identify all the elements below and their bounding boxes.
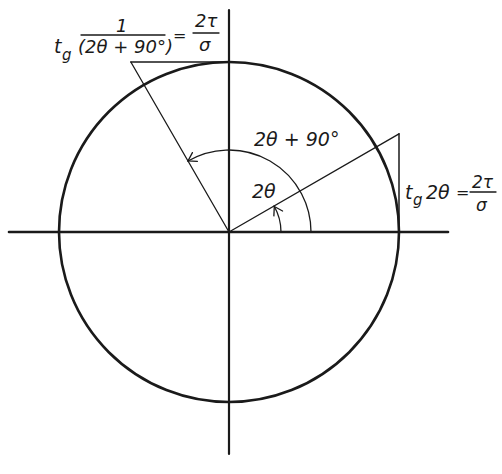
eq-right-denominator: σ xyxy=(476,195,488,215)
eq-left-numerator: 1 xyxy=(116,15,127,36)
eq-left-equals: = xyxy=(173,26,186,45)
ray-two-theta-plus-90 xyxy=(131,62,229,232)
eq-right-tg-sub: g xyxy=(413,191,423,209)
eq-left-rhs-denominator: σ xyxy=(199,34,211,55)
eq-left-argument: (2θ + 90°) xyxy=(78,36,173,57)
label-two-theta-plus-90: 2θ + 90° xyxy=(254,128,339,150)
equation-inverse-tan: 1 t g (2θ + 90°) = 2τ σ xyxy=(54,10,219,64)
diagram-canvas: 2θ 2θ + 90° t g 2θ = 2τ σ 1 t g (2θ + 90… xyxy=(0,0,502,474)
eq-right-numerator: 2τ xyxy=(472,172,494,192)
equation-tan-two-theta: t g 2θ = 2τ σ xyxy=(405,172,496,215)
eq-left-tg-sub: g xyxy=(62,46,72,64)
eq-right-arg: 2θ xyxy=(426,181,450,203)
eq-left-rhs-numerator: 2τ xyxy=(195,10,217,31)
eq-right-equals: = xyxy=(456,183,469,202)
label-two-theta: 2θ xyxy=(252,180,276,202)
